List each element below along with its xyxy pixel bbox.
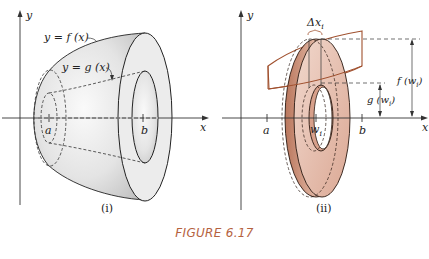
y-axis-label: y <box>246 9 254 22</box>
x-axis-label: x <box>200 121 207 134</box>
outer-radius-label: f (wi) <box>396 75 423 89</box>
inner-hole-ellipse <box>132 71 158 163</box>
panel-i-label: (i) <box>101 202 113 215</box>
tick-b-label: b <box>359 124 366 137</box>
panel-i: y x a b y = f (x) y = g (x) <box>2 9 209 205</box>
x-axis-arrow-icon <box>202 116 209 121</box>
outer-curve-label: y = f (x) <box>43 31 89 44</box>
delta-x-label: Δxi <box>306 16 324 31</box>
panel-ii: y x a b wi Δxi f (wi) g (wi) <box>222 9 429 210</box>
y-axis-arrow-icon <box>239 10 244 17</box>
figure-caption: FIGURE 6.17 <box>0 226 429 240</box>
delta-brace <box>308 30 322 35</box>
figure-canvas: y x a b y = f (x) y = g (x) <box>0 0 429 259</box>
y-axis-arrow-icon <box>18 10 23 17</box>
tick-b-label: b <box>141 124 148 137</box>
panel-ii-label: (ii) <box>316 202 332 215</box>
tick-a-label: a <box>45 124 52 137</box>
x-axis-arrow-icon <box>421 116 428 121</box>
x-axis-label: x <box>422 121 429 134</box>
inner-radius-label: g (wi) <box>367 94 395 108</box>
y-axis-label: y <box>25 9 33 22</box>
inner-curve-label: y = g (x) <box>61 61 110 74</box>
tick-a-label: a <box>263 124 270 137</box>
